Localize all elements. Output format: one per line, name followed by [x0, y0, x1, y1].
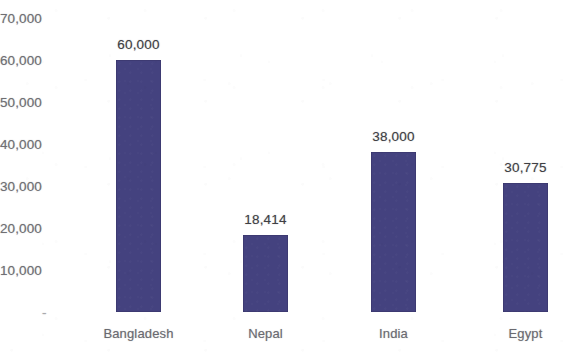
y-axis-tick-10000: 10,000	[0, 263, 64, 278]
bar-bangladesh	[116, 60, 161, 312]
value-label-india: 38,000	[356, 129, 431, 144]
plot-area: 70,000 60,000 50,000 40,000 30,000 20,00…	[0, 0, 580, 353]
y-axis-tick-20000: 20,000	[0, 221, 64, 236]
y-axis-tick-60000: 60,000	[0, 53, 64, 68]
bar-nepal	[243, 235, 288, 312]
bar-chart: 70,000 60,000 50,000 40,000 30,000 20,00…	[0, 0, 580, 353]
category-label-egypt: Egypt	[475, 326, 576, 341]
bar-india	[371, 152, 416, 312]
y-axis-tick-40000: 40,000	[0, 137, 64, 152]
bar-egypt	[503, 183, 548, 312]
value-label-egypt: 30,775	[488, 160, 563, 175]
y-axis-tick-50000: 50,000	[0, 95, 64, 110]
category-label-nepal: Nepal	[215, 326, 316, 341]
value-label-bangladesh: 60,000	[101, 37, 176, 52]
y-axis-tick-70000: 70,000	[0, 11, 64, 26]
category-label-bangladesh: Bangladesh	[88, 326, 189, 341]
y-axis-tick-zero: -	[42, 305, 62, 320]
y-axis-tick-30000: 30,000	[0, 179, 64, 194]
value-label-nepal: 18,414	[228, 212, 303, 227]
category-label-india: India	[343, 326, 444, 341]
